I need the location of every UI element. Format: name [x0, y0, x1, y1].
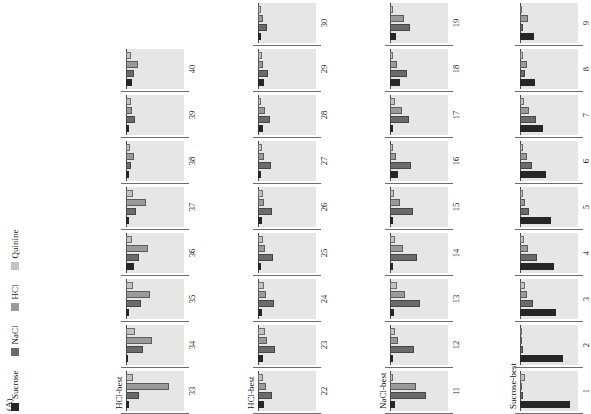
axis-spine	[385, 137, 453, 138]
axis-spine	[385, 91, 453, 92]
bar-quinine	[126, 144, 130, 151]
bar-sucrose	[390, 355, 393, 362]
neuron-panel[interactable]: 22	[258, 371, 329, 411]
neuron-number-label: 12	[452, 341, 461, 350]
legend-item-nacl: NaCl	[10, 326, 20, 357]
neuron-panel[interactable]: 23	[258, 325, 329, 365]
bar-hcl	[390, 291, 405, 298]
neuron-panel[interactable]: 11	[390, 371, 461, 411]
axis-spine	[121, 183, 189, 184]
neuron-panel[interactable]: 33	[126, 371, 197, 411]
row-label: HCl-best	[114, 377, 124, 410]
neuron-panel[interactable]: 25	[258, 233, 329, 273]
neuron-number-label: 38	[188, 157, 197, 166]
bar-nacl	[390, 162, 411, 169]
neuron-panel[interactable]: 39	[126, 95, 197, 135]
panel-plot-area	[258, 95, 316, 135]
neuron-panel[interactable]: 24	[258, 279, 329, 319]
neuron-panel[interactable]: 9	[520, 3, 591, 43]
neuron-panel[interactable]: 14	[390, 233, 461, 273]
neuron-panel[interactable]: 18	[390, 49, 461, 89]
bar-quinine	[258, 190, 263, 197]
neuron-number-label: 30	[320, 19, 329, 28]
neuron-panel[interactable]: 30	[258, 3, 329, 43]
neuron-panel[interactable]: 6	[520, 141, 591, 181]
bar-nacl	[126, 162, 131, 169]
neuron-number-label: 35	[188, 295, 197, 304]
neuron-panel[interactable]: 7	[520, 95, 591, 135]
bar-hcl	[390, 245, 403, 252]
neuron-panel[interactable]: 13	[390, 279, 461, 319]
neuron-number-label: 34	[188, 341, 197, 350]
neuron-panel[interactable]: 29	[258, 49, 329, 89]
neuron-panel[interactable]: 12	[390, 325, 461, 365]
axis-spine	[515, 321, 583, 322]
bar-sucrose	[520, 309, 556, 316]
bar-quinine	[520, 144, 523, 151]
bar-quinine	[520, 236, 524, 243]
panel-plot-area	[390, 3, 448, 43]
axis-spine	[253, 45, 321, 46]
bar-sucrose	[126, 217, 129, 224]
panel-plot-area	[390, 325, 448, 365]
bar-sucrose	[520, 33, 534, 40]
bar-nacl	[126, 116, 135, 123]
bar-nacl	[390, 254, 417, 261]
bar-nacl	[126, 254, 139, 261]
neuron-number-label: 40	[188, 65, 197, 74]
neuron-number-label: 39	[188, 111, 197, 120]
legend-label: Quinine	[10, 229, 20, 258]
bar-quinine	[126, 282, 133, 289]
bar-nacl	[390, 116, 409, 123]
neuron-panel[interactable]: 37	[126, 187, 197, 227]
bar-quinine	[258, 328, 265, 335]
bar-nacl	[258, 346, 275, 353]
neuron-number-label: 7	[582, 113, 591, 117]
bar-nacl	[126, 208, 136, 215]
bar-sucrose	[126, 79, 132, 86]
axis-spine	[515, 45, 583, 46]
bar-hcl	[390, 153, 396, 160]
bar-quinine	[390, 374, 393, 381]
neuron-panel[interactable]: 36	[126, 233, 197, 273]
bar-quinine	[258, 98, 261, 105]
neuron-panel[interactable]: 5	[520, 187, 591, 227]
bar-sucrose	[520, 263, 554, 270]
bar-sucrose	[258, 79, 264, 86]
neuron-panel[interactable]: 35	[126, 279, 197, 319]
panel-plot-area	[520, 187, 578, 227]
neuron-panel[interactable]: 38	[126, 141, 197, 181]
bar-quinine	[258, 144, 262, 151]
panel-plot-area	[520, 371, 578, 411]
neuron-panel[interactable]: 26	[258, 187, 329, 227]
neuron-panel[interactable]: 19	[390, 3, 461, 43]
neuron-panel[interactable]: 1	[520, 371, 591, 411]
neuron-panel[interactable]: 2	[520, 325, 591, 365]
bar-nacl	[390, 24, 410, 31]
neuron-panel[interactable]: 8	[520, 49, 591, 89]
bar-sucrose	[390, 309, 394, 316]
neuron-panel[interactable]: 3	[520, 279, 591, 319]
neuron-panel[interactable]: 16	[390, 141, 461, 181]
neuron-panel[interactable]: 34	[126, 325, 197, 365]
axis-spine	[253, 91, 321, 92]
bar-nacl	[520, 392, 523, 399]
neuron-panel[interactable]: 40	[126, 49, 197, 89]
neuron-number-label: 28	[320, 111, 329, 120]
axis-spine	[515, 183, 583, 184]
bar-nacl	[390, 392, 426, 399]
bar-hcl	[126, 153, 134, 160]
neuron-panel[interactable]: 15	[390, 187, 461, 227]
neuron-panel[interactable]: 17	[390, 95, 461, 135]
panel-plot-area	[520, 3, 578, 43]
neuron-panel[interactable]: 28	[258, 95, 329, 135]
bar-nacl	[126, 346, 143, 353]
bar-hcl	[258, 291, 266, 298]
bar-sucrose	[258, 33, 261, 40]
neuron-panel[interactable]: 27	[258, 141, 329, 181]
neuron-number-label: 17	[452, 111, 461, 120]
legend-swatch-icon	[11, 304, 19, 312]
neuron-number-label: 5	[582, 205, 591, 209]
neuron-panel[interactable]: 4	[520, 233, 591, 273]
